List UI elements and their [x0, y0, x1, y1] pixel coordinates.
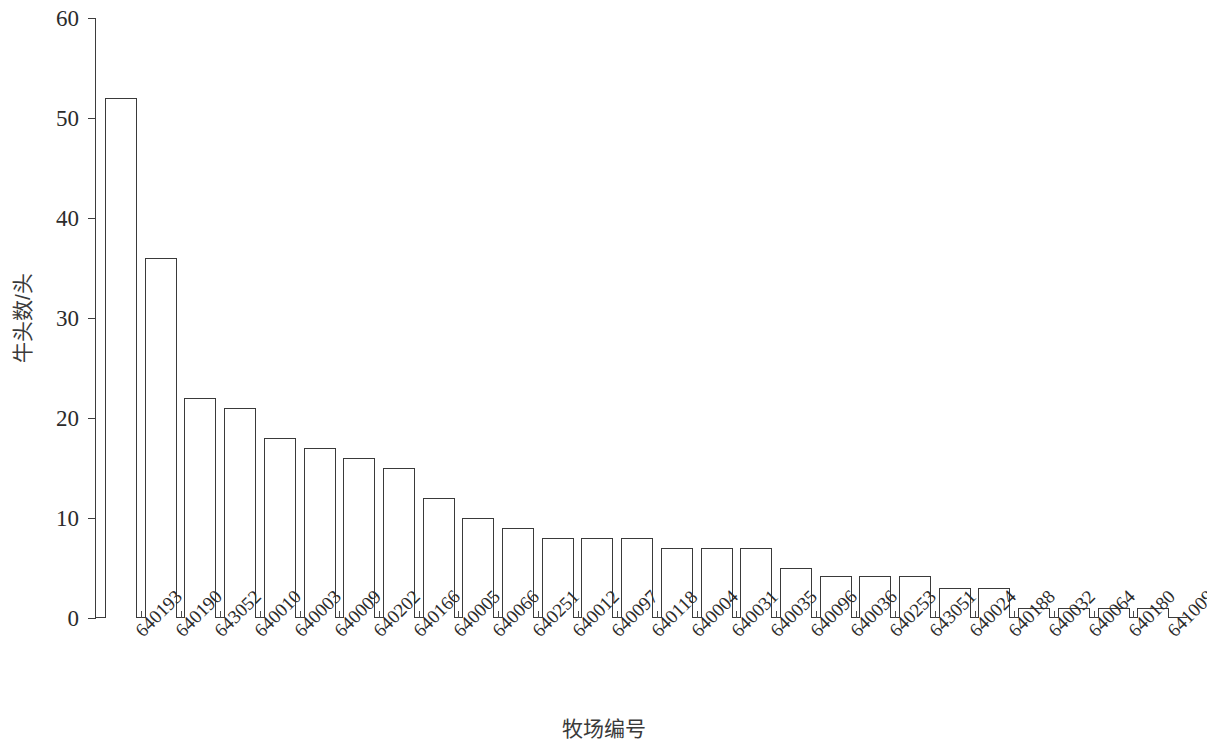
x-axis-category-label: 640166	[409, 626, 425, 642]
x-axis-category-label: 640009	[330, 626, 346, 642]
x-axis-category-label: 640193	[131, 626, 147, 642]
y-axis-title: 牛头数/头	[6, 273, 36, 363]
x-axis-category-label: 640202	[369, 626, 385, 642]
x-axis-category-label: 640036	[846, 626, 862, 642]
y-axis-tick-label: 10	[56, 506, 79, 532]
y-axis-tick-label: 60	[56, 6, 79, 32]
x-axis-category-label: 640012	[568, 626, 584, 642]
x-axis-category-label: 640180	[1124, 626, 1140, 642]
y-axis-tick: 10	[88, 518, 95, 519]
x-axis-title: 牧场编号	[0, 712, 1207, 742]
x-axis-category-label: 640031	[727, 626, 743, 642]
y-axis-tick: 60	[88, 18, 95, 19]
bar	[105, 98, 137, 618]
y-axis-tick-label: 50	[56, 106, 79, 132]
x-axis-category-label: 643051	[925, 626, 941, 642]
x-axis-category-label: 643052	[210, 626, 226, 642]
y-axis-tick: 50	[88, 118, 95, 119]
x-axis-category-label: 641009	[1163, 626, 1179, 642]
bar	[145, 258, 177, 618]
x-axis-category-label: 640035	[766, 626, 782, 642]
x-axis-category-label: 640253	[885, 626, 901, 642]
x-axis-category-label: 640190	[171, 626, 187, 642]
y-axis-tick-label: 40	[56, 206, 79, 232]
x-axis-category-label: 640032	[1044, 626, 1060, 642]
x-axis-category-label: 640096	[806, 626, 822, 642]
x-axis-category-label: 640118	[647, 626, 663, 642]
y-axis-line	[95, 18, 96, 619]
x-axis-category-label: 640003	[290, 626, 306, 642]
y-axis-tick: 20	[88, 418, 95, 419]
x-axis-category-label: 640251	[528, 626, 544, 642]
y-axis-tick-label: 0	[68, 606, 80, 632]
y-axis-tick: 30	[88, 318, 95, 319]
y-axis-tick-label: 20	[56, 406, 79, 432]
y-axis-tick: 40	[88, 218, 95, 219]
x-axis-category-label: 640004	[687, 626, 703, 642]
y-axis-tick: 0	[88, 618, 95, 619]
x-axis-category-label: 640066	[488, 626, 504, 642]
x-axis-category-label: 640005	[449, 626, 465, 642]
x-axis-category-label: 640010	[250, 626, 266, 642]
x-axis-category-label: 640024	[965, 626, 981, 642]
y-axis-tick-label: 30	[56, 306, 79, 332]
x-axis-category-label: 640064	[1084, 626, 1100, 642]
bar-chart: 牛头数/头 0102030405060 64019364019064305264…	[0, 0, 1207, 750]
x-axis-category-label: 640188	[1004, 626, 1020, 642]
plot-area: 0102030405060	[95, 18, 1187, 618]
x-axis-category-label: 640097	[607, 626, 623, 642]
